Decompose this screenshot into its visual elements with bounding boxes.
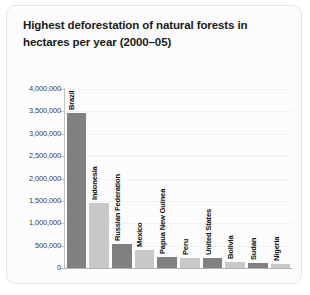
- bar-series: BrazilIndonesiaRussian FederationMexicoP…: [65, 89, 292, 268]
- bar-category-label: Sudan: [249, 238, 258, 260]
- bar[interactable]: [225, 262, 245, 268]
- bar-group[interactable]: Mexico: [135, 89, 155, 268]
- y-axis-tick-label: 1,000,000: [29, 218, 61, 227]
- y-axis-tick-label: 1,500,000: [29, 196, 61, 205]
- bar-category-label: Bolivia: [226, 235, 235, 259]
- y-axis-tick-label: 4,000,000: [29, 84, 61, 93]
- bar[interactable]: [67, 113, 87, 268]
- bar-group[interactable]: United States: [203, 89, 223, 268]
- bar-group[interactable]: Russian Federation: [112, 89, 132, 268]
- y-axis-tick-label: 500,000: [35, 241, 61, 250]
- bar[interactable]: [89, 203, 109, 268]
- bar-category-label: Indonesia: [90, 167, 99, 201]
- bar[interactable]: [135, 250, 155, 268]
- bar[interactable]: [180, 258, 200, 268]
- bar-category-label: Russian Federation: [113, 174, 122, 241]
- bar-category-label: Peru: [181, 239, 190, 255]
- bar-group[interactable]: Peru: [180, 89, 200, 268]
- bar-group[interactable]: Nigeria: [271, 89, 291, 268]
- bar[interactable]: [248, 263, 268, 268]
- bar-category-label: Mexico: [135, 223, 144, 248]
- chart-card: Highest deforestation of natural forests…: [6, 5, 302, 284]
- bar-group[interactable]: Brazil: [67, 89, 87, 268]
- chart-plot-area: 4,000,0003,500,0003,000,0002,500,0002,00…: [7, 6, 303, 285]
- bar-category-label: Papua New Guinea: [158, 189, 167, 254]
- bar-group[interactable]: Indonesia: [89, 89, 109, 268]
- x-axis-line: [64, 268, 292, 269]
- bar-category-label: Nigeria: [272, 237, 281, 261]
- bar[interactable]: [112, 244, 132, 268]
- bar-group[interactable]: Sudan: [248, 89, 268, 268]
- bar-group[interactable]: Bolivia: [225, 89, 245, 268]
- bar[interactable]: [271, 264, 291, 268]
- bar[interactable]: [157, 257, 177, 268]
- bar-category-label: Brazil: [67, 90, 76, 109]
- y-axis-tick-label: 0: [57, 263, 61, 272]
- bar[interactable]: [203, 258, 223, 268]
- y-axis-tick-label: 3,500,000: [29, 106, 61, 115]
- bar-category-label: United States: [204, 209, 213, 255]
- y-axis-tick-label: 3,000,000: [29, 129, 61, 138]
- bar-group[interactable]: Papua New Guinea: [157, 89, 177, 268]
- y-axis-tick-label: 2,000,000: [29, 174, 61, 183]
- y-axis-tick-label: 2,500,000: [29, 151, 61, 160]
